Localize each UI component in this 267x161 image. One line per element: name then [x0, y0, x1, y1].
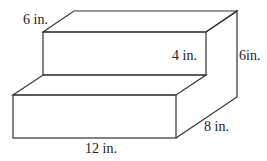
label-top-depth: 6 in.	[23, 12, 48, 28]
upper-top-face	[43, 11, 237, 32]
label-step-height: 4 in.	[172, 48, 197, 64]
label-total-height: 6in.	[239, 48, 260, 64]
lower-front-face	[13, 95, 176, 138]
label-depth: 8 in.	[204, 119, 229, 135]
label-width: 12 in.	[85, 141, 117, 157]
step-top-face	[13, 75, 206, 95]
